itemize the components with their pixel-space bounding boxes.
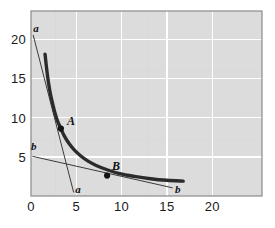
data-point-b <box>104 173 110 179</box>
y-tick-label-20: 20 <box>11 33 26 46</box>
x-tick-label-5: 5 <box>73 200 81 213</box>
y-tick-label-15: 15 <box>11 72 26 85</box>
x-tick-label-20: 20 <box>205 200 220 213</box>
data-point-a <box>58 125 64 131</box>
line-label-a-bottom: a <box>75 184 81 195</box>
line-label-b-right: b <box>175 184 181 195</box>
y-tick-label-5: 5 <box>18 150 26 163</box>
point-label-b: B <box>112 160 120 172</box>
line-label-b-left: b <box>31 140 37 151</box>
point-label-a: A <box>67 115 75 127</box>
line-label-a-top: a <box>33 23 39 34</box>
x-tick-label-15: 15 <box>159 200 174 213</box>
chart-canvas <box>0 0 275 228</box>
y-tick-label-10: 10 <box>11 111 26 124</box>
chart-figure: 0 5 10 15 20 5 10 15 20 A B a a b b <box>0 0 275 228</box>
x-tick-label-0: 0 <box>27 200 35 213</box>
x-tick-label-10: 10 <box>114 200 129 213</box>
